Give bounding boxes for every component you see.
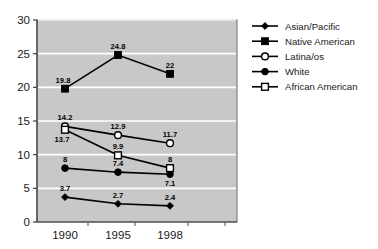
data-point-marker (262, 68, 269, 75)
data-point-marker (262, 23, 269, 30)
chart-legend: Asian/PacificNative AmericanLatina/osWhi… (252, 21, 358, 93)
y-axis-tick-labels: 051015202530 (17, 14, 30, 228)
data-point-marker (115, 132, 122, 139)
x-axis-tick-labels: 199019951998 (52, 229, 183, 241)
data-point-label: 22 (166, 61, 174, 70)
legend-item-white[interactable]: White (252, 66, 310, 77)
y-tick-label: 30 (17, 14, 30, 26)
legend-label: White (285, 66, 310, 77)
y-tick-label: 5 (24, 182, 30, 194)
data-point-marker (262, 38, 269, 45)
data-point-label: 13.7 (55, 135, 70, 144)
y-tick-label: 10 (17, 149, 30, 161)
data-point-marker (167, 70, 174, 77)
legend-label: Asian/Pacific (285, 21, 340, 32)
data-point-label: 7.4 (113, 159, 124, 168)
legend-label: Native American (285, 36, 355, 47)
data-point-label: 24.8 (111, 42, 126, 51)
data-point-marker (62, 126, 69, 133)
data-point-marker (62, 85, 69, 92)
data-point-label: 2.7 (113, 191, 124, 200)
data-point-marker (115, 52, 122, 59)
data-point-label: 9.9 (113, 142, 124, 151)
data-point-label: 2.4 (165, 193, 176, 202)
y-tick-label: 0 (24, 216, 30, 228)
data-point-label: 7.1 (165, 179, 176, 188)
legend-item-native-american[interactable]: Native American (252, 36, 355, 47)
data-point-marker (262, 83, 269, 90)
x-tick-label: 1998 (157, 229, 183, 241)
data-point-marker (262, 53, 269, 60)
legend-item-african-american[interactable]: African American (252, 81, 358, 92)
data-point-label: 8 (63, 155, 67, 164)
x-tick-label: 1995 (105, 229, 131, 241)
data-point-marker (115, 169, 122, 176)
x-tick-label: 1990 (52, 229, 78, 241)
data-point-label: 8 (168, 155, 172, 164)
data-point-marker (115, 152, 122, 159)
data-point-label: 14.2 (58, 113, 73, 122)
line-chart: 051015202530 199019951998 3.72.72.419.82… (0, 0, 378, 249)
data-point-label: 11.7 (163, 130, 177, 139)
legend-label: African American (285, 81, 358, 92)
data-point-label: 3.7 (60, 184, 71, 193)
y-tick-label: 20 (17, 81, 30, 93)
x-axis-ticks (88, 222, 225, 226)
data-point-label: 19.8 (56, 76, 71, 85)
legend-item-latina-os[interactable]: Latina/os (252, 51, 324, 62)
data-point-marker (62, 165, 69, 172)
legend-item-asian-pacific[interactable]: Asian/Pacific (252, 21, 340, 32)
data-point-marker (167, 140, 174, 147)
y-tick-label: 15 (17, 115, 30, 127)
chart-canvas: 051015202530 199019951998 3.72.72.419.82… (0, 0, 378, 249)
y-tick-label: 25 (17, 48, 30, 60)
data-point-label: 12.9 (111, 122, 126, 131)
data-point-marker (167, 165, 174, 172)
legend-label: Latina/os (285, 51, 324, 62)
